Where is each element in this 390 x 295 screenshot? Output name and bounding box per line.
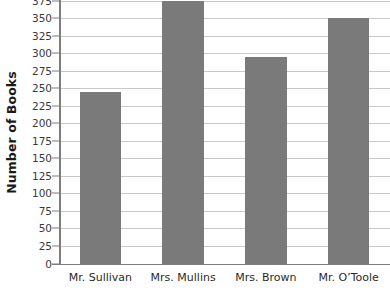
x-axis-line: [52, 264, 390, 266]
bar-chart: Number of Books 025507510012515017520022…: [0, 0, 390, 295]
y-tick-mark: [52, 175, 59, 176]
y-tick-label: 100: [22, 188, 52, 199]
y-tick-label: 75: [22, 206, 52, 217]
bar: [80, 92, 121, 263]
y-tick-label: 125: [22, 171, 52, 182]
y-tick-mark: [52, 245, 59, 246]
y-tick-mark: [52, 53, 59, 54]
y-tick-mark: [52, 140, 59, 141]
y-tick-label: 375: [22, 0, 52, 6]
y-tick-label: 50: [22, 223, 52, 234]
y-tick-label: 150: [22, 153, 52, 164]
y-tick-mark: [52, 0, 59, 1]
x-axis-tick-labels: Mr. SullivanMrs. MullinsMrs. BrownMr. O’…: [59, 267, 390, 291]
y-tick-label: 325: [22, 30, 52, 41]
y-axis-tick-marks: [52, 0, 59, 265]
y-axis-title-text: Number of Books: [4, 71, 19, 194]
y-tick-mark: [52, 123, 59, 124]
y-tick-mark: [52, 35, 59, 36]
bars-layer: [59, 0, 390, 265]
y-tick-mark: [52, 228, 59, 229]
y-tick-mark: [52, 18, 59, 19]
x-tick-label: Mr. O’Toole: [318, 271, 378, 284]
y-tick-label: 275: [22, 65, 52, 76]
y-axis-title: Number of Books: [0, 0, 22, 265]
y-tick-mark: [52, 88, 59, 89]
y-tick-label: 175: [22, 136, 52, 147]
bar: [245, 57, 286, 263]
y-axis-tick-labels: 0255075100125150175200225250275300325350…: [22, 0, 52, 265]
x-tick-label: Mr. Sullivan: [69, 271, 132, 284]
bar: [162, 1, 203, 264]
y-tick-label: 0: [22, 258, 52, 269]
y-tick-label: 225: [22, 100, 52, 111]
y-tick-label: 250: [22, 83, 52, 94]
x-tick-label: Mrs. Brown: [235, 271, 296, 284]
y-tick-mark: [52, 210, 59, 211]
y-tick-label: 200: [22, 118, 52, 129]
x-tick-label: Mrs. Mullins: [151, 271, 216, 284]
y-tick-mark: [52, 70, 59, 71]
plot-area: [59, 0, 390, 265]
y-tick-label: 25: [22, 241, 52, 252]
y-tick-mark: [52, 105, 59, 106]
bar: [328, 18, 369, 263]
y-tick-label: 350: [22, 13, 52, 24]
y-tick-label: 300: [22, 48, 52, 59]
y-tick-mark: [52, 193, 59, 194]
y-tick-mark: [52, 158, 59, 159]
